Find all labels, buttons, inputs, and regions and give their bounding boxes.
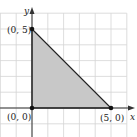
x-axis-arrow-icon bbox=[128, 106, 135, 111]
x-axis-label: x bbox=[130, 112, 135, 122]
vertex-point bbox=[109, 106, 114, 111]
vertex-label-5-0: (5, 0) bbox=[100, 113, 124, 123]
vertex-label-0-0: (0, 0) bbox=[7, 112, 31, 122]
y-axis-arrow-icon bbox=[30, 7, 35, 14]
coordinate-plane: x y (0, 5) (0, 0) (5, 0) bbox=[0, 0, 137, 137]
vertex-label-0-5: (0, 5) bbox=[7, 25, 31, 35]
vertex-point bbox=[30, 106, 35, 111]
y-axis-label: y bbox=[23, 6, 30, 16]
shaded-triangle-region bbox=[32, 29, 111, 108]
